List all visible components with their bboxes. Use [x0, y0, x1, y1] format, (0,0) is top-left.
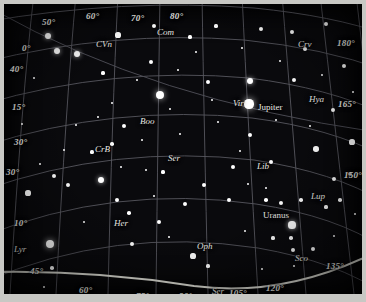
star-marker: [299, 198, 303, 202]
star-marker: [349, 139, 354, 144]
star-marker: [324, 205, 327, 208]
star-marker: [50, 266, 54, 270]
star-marker: [127, 211, 131, 215]
star-marker: [338, 198, 342, 202]
azimuth-meridian: [320, 4, 354, 294]
star-marker: [25, 190, 30, 195]
altitude-arc: [4, 198, 362, 248]
azimuth-meridian: [242, 4, 258, 294]
star-marker: [46, 240, 54, 248]
star-marker: [190, 253, 195, 258]
azimuth-meridian: [108, 4, 118, 294]
star-marker: [188, 35, 191, 38]
star-marker: [90, 150, 93, 153]
star-marker: [313, 146, 319, 152]
star-marker: [202, 183, 206, 187]
star-marker: [348, 172, 352, 176]
ecliptic-line: [4, 10, 362, 132]
star-marker: [332, 177, 336, 181]
star-marker: [288, 221, 295, 228]
azimuth-meridian: [356, 4, 362, 294]
star-marker: [54, 48, 60, 54]
altitude-arc: [4, 5, 362, 34]
azimuth-meridian: [10, 4, 34, 294]
star-marker: [231, 165, 235, 169]
star-marker: [110, 142, 114, 146]
star-marker: [206, 80, 210, 84]
star-marker: [161, 170, 164, 173]
star-marker: [115, 198, 119, 202]
star-marker: [247, 78, 253, 84]
star-marker: [292, 78, 296, 82]
star-marker: [244, 99, 253, 108]
star-marker: [264, 198, 268, 202]
sky-background: 50°60°70°80°0°40°15°30°30°10°45°180°165°…: [4, 4, 362, 294]
altitude-arc: [4, 156, 362, 202]
azimuth-meridian: [202, 4, 208, 294]
azimuth-meridian: [156, 4, 160, 294]
star-marker: [206, 264, 209, 267]
star-marker: [152, 24, 156, 28]
star-chart-figure: 50°60°70°80°0°40°15°30°30°10°45°180°165°…: [0, 0, 366, 302]
star-marker: [115, 32, 120, 37]
star-marker: [214, 24, 217, 27]
star-marker: [311, 247, 315, 251]
star-marker: [271, 236, 274, 239]
star-marker: [101, 71, 104, 74]
star-marker: [122, 124, 126, 128]
altitude-arc: [4, 75, 362, 114]
star-marker: [183, 202, 187, 206]
star-marker: [290, 30, 294, 34]
star-marker: [289, 236, 293, 240]
star-marker: [303, 47, 307, 51]
azimuth-meridian: [56, 4, 76, 294]
